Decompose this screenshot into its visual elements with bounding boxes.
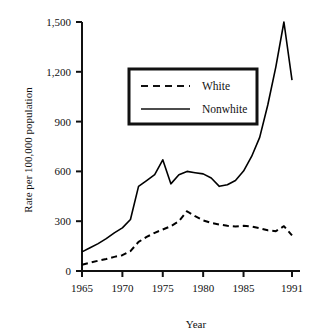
chart-figure: 03006009001,2001,500 1965197019751980198… bbox=[0, 0, 328, 336]
line-chart: 03006009001,2001,500 1965197019751980198… bbox=[0, 0, 328, 336]
y-tick-label: 300 bbox=[55, 215, 72, 227]
legend-label-nonwhite: Nonwhite bbox=[202, 103, 247, 115]
x-tick-label: 1980 bbox=[192, 282, 215, 294]
y-axis-title: Rate per 100,000 population bbox=[22, 87, 34, 213]
x-tick-label: 1970 bbox=[111, 282, 134, 294]
x-tick-label: 1965 bbox=[71, 282, 94, 294]
x-axis-title: Year bbox=[186, 318, 207, 330]
y-tick-label: 0 bbox=[66, 265, 72, 277]
x-tick-label: 1991 bbox=[281, 282, 303, 294]
y-tick-label: 600 bbox=[55, 165, 72, 177]
x-tick-label: 1985 bbox=[233, 282, 256, 294]
y-tick-label: 900 bbox=[55, 116, 72, 128]
legend-label-white: White bbox=[202, 80, 230, 92]
legend-box bbox=[129, 69, 257, 124]
x-tick-label: 1975 bbox=[152, 282, 175, 294]
y-tick-label: 1,500 bbox=[46, 16, 71, 28]
chart-legend: White Nonwhite bbox=[129, 69, 257, 124]
y-tick-label: 1,200 bbox=[46, 66, 71, 78]
